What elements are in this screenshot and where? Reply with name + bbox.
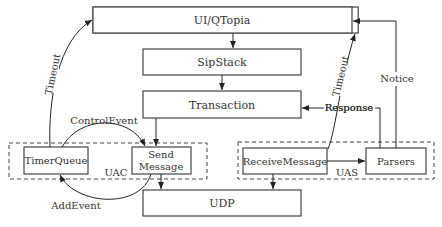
uac-label: UAC xyxy=(105,167,128,178)
uas-label: UAS xyxy=(336,167,358,178)
timeout-left-label: Timeout xyxy=(43,53,62,96)
timeout-right-label: Timeout xyxy=(330,55,351,98)
control-event-label: ControlEvent xyxy=(70,115,137,126)
diagram-canvas: UI/QTopia SipStack Transaction TimerQueu… xyxy=(0,0,442,227)
ui-qtopia-label: UI/QTopia xyxy=(194,14,251,27)
parsers-label: Parsers xyxy=(377,156,415,167)
response-label-text: Response xyxy=(325,102,374,113)
arrow-response xyxy=(302,108,380,148)
transaction-label: Transaction xyxy=(189,99,255,112)
send-label-line2: Message xyxy=(139,161,184,172)
add-event-label: AddEvent xyxy=(50,200,100,211)
notice-label: Notice xyxy=(380,73,414,84)
send-label-line1: Send xyxy=(148,149,174,160)
timerqueue-label: TimerQueue xyxy=(25,155,88,166)
sipstack-label: SipStack xyxy=(197,56,247,69)
receive-label: ReceiveMessage xyxy=(243,156,328,167)
udp-label: UDP xyxy=(209,197,235,210)
architecture-diagram: UI/QTopia SipStack Transaction TimerQueu… xyxy=(0,0,442,227)
